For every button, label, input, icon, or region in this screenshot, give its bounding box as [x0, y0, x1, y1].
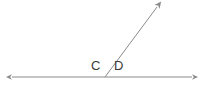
- angle-ray-line: [105, 7, 157, 77]
- angle-label-d: D: [114, 59, 123, 72]
- geometry-figure-canvas: C D: [0, 0, 202, 99]
- geometry-figure-svg: [0, 0, 202, 99]
- angle-label-c: C: [91, 59, 100, 72]
